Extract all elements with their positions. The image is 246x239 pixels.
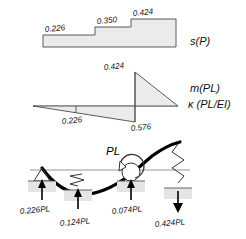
- support-spring-right: [164, 144, 192, 199]
- reaction-arrow-4-head: [173, 203, 183, 213]
- shear-label-2: 0.350: [96, 15, 118, 26]
- shear-axis-label: s(P): [190, 35, 211, 47]
- beam-assembly: PL 0.226PL 0.124PL 0.074PL 0.424PL: [19, 142, 192, 229]
- moment-positive-area: [135, 72, 178, 106]
- structural-diagram-figure: 0.226 0.350 0.424 s(P) 0.424 0.226 0.576…: [0, 0, 246, 239]
- moment-diagram: 0.424 0.226 0.576 m(PL) κ (PL/EI): [33, 61, 231, 133]
- moment-label-negative: 0.576: [130, 122, 152, 133]
- reaction-label-1: 0.226PL: [19, 204, 50, 216]
- reaction-label-4: 0.424PL: [154, 217, 185, 229]
- shear-label-1: 0.226: [44, 23, 66, 34]
- applied-moment-label: PL: [106, 145, 120, 157]
- moment-negative-area: [33, 106, 135, 122]
- curvature-axis-label: κ (PL/EI): [188, 98, 231, 110]
- reaction-label-2: 0.124PL: [59, 216, 90, 228]
- shear-diagram: 0.226 0.350 0.424 s(P): [43, 7, 211, 47]
- moment-axis-label-1: m(PL): [190, 82, 220, 94]
- moment-label-mid: 0.226: [61, 115, 83, 126]
- spring-zigzag-icon: [70, 174, 84, 186]
- spring-zigzag-icon-right: [172, 144, 184, 183]
- shear-label-3: 0.424: [132, 7, 154, 18]
- moment-label-positive: 0.424: [103, 61, 125, 72]
- reaction-label-3: 0.074PL: [111, 204, 142, 216]
